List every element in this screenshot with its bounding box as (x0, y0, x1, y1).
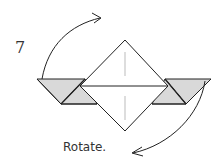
rotate-arrow-top (42, 13, 101, 79)
instruction-text: Rotate. (63, 140, 106, 154)
origami-diagram (0, 0, 223, 160)
step-number: 7 (15, 38, 25, 57)
